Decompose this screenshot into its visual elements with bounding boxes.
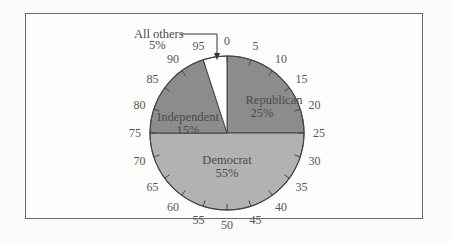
tick-label: 75 <box>129 126 141 140</box>
tick-label: 20 <box>308 98 320 112</box>
tick-label: 15 <box>295 72 307 86</box>
tick-label: 95 <box>193 39 205 53</box>
tick-label: 35 <box>295 180 307 194</box>
label-democrat: Democrat <box>202 153 252 167</box>
label-independent-pct: 15% <box>177 123 200 137</box>
tick-label: 65 <box>147 180 159 194</box>
tick-label: 25 <box>313 126 325 140</box>
tick-label: 80 <box>134 98 146 112</box>
tick-label: 90 <box>167 52 179 66</box>
pie-chart: 05101520253035404550556065707580859095 R… <box>0 0 451 244</box>
tick-label: 30 <box>308 154 320 168</box>
label-independent: Independent <box>157 110 219 124</box>
tick-label: 60 <box>167 200 179 214</box>
label-republican-pct: 25% <box>251 106 274 120</box>
label-democrat-pct: 55% <box>216 166 239 180</box>
tick-label: 50 <box>221 218 233 232</box>
tick-label: 10 <box>275 52 287 66</box>
label-republican: Republican <box>246 93 304 107</box>
tick-label: 0 <box>224 34 230 48</box>
tick-label: 85 <box>147 72 159 86</box>
tick-label: 5 <box>252 39 258 53</box>
tick-label: 45 <box>249 213 261 227</box>
tick-label: 40 <box>275 200 287 214</box>
label-all-others-pct: 5% <box>149 38 166 52</box>
tick-label: 70 <box>134 154 146 168</box>
tick-label: 55 <box>193 213 205 227</box>
